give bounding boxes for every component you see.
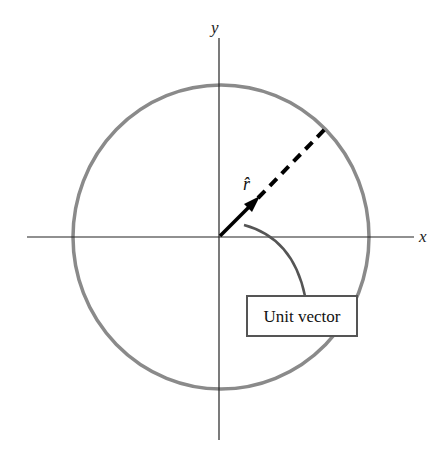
callout-label: Unit vector [264, 307, 341, 326]
unit-vector-diagram: x y r̂ Unit vector [0, 0, 447, 453]
unit-vector-arrow [220, 206, 250, 236]
vector-label: r̂ [243, 174, 251, 194]
y-axis-label: y [209, 18, 219, 37]
radial-dashed-line [258, 127, 327, 198]
x-axis-label: x [418, 227, 427, 246]
callout-leader [244, 225, 305, 296]
